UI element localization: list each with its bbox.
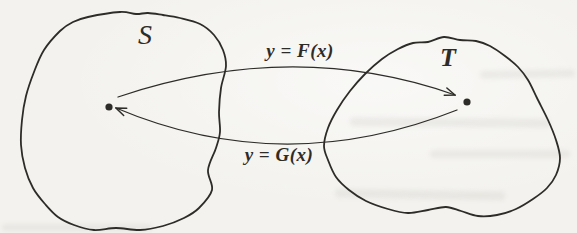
point-in-s-dot (105, 103, 112, 110)
forward-map-label: y = F(x) (266, 40, 334, 62)
map-f-arrow (118, 67, 455, 97)
map-g-arrow (116, 108, 457, 144)
diagram-svg (0, 0, 577, 233)
set-t-label: T (440, 43, 456, 73)
set-s-outline (21, 12, 226, 230)
figure-canvas: S T y = F(x) y = G(x) (0, 0, 577, 233)
set-s-label: S (138, 19, 152, 51)
point-in-t-dot (463, 98, 470, 105)
inverse-map-label: y = G(x) (245, 144, 314, 166)
